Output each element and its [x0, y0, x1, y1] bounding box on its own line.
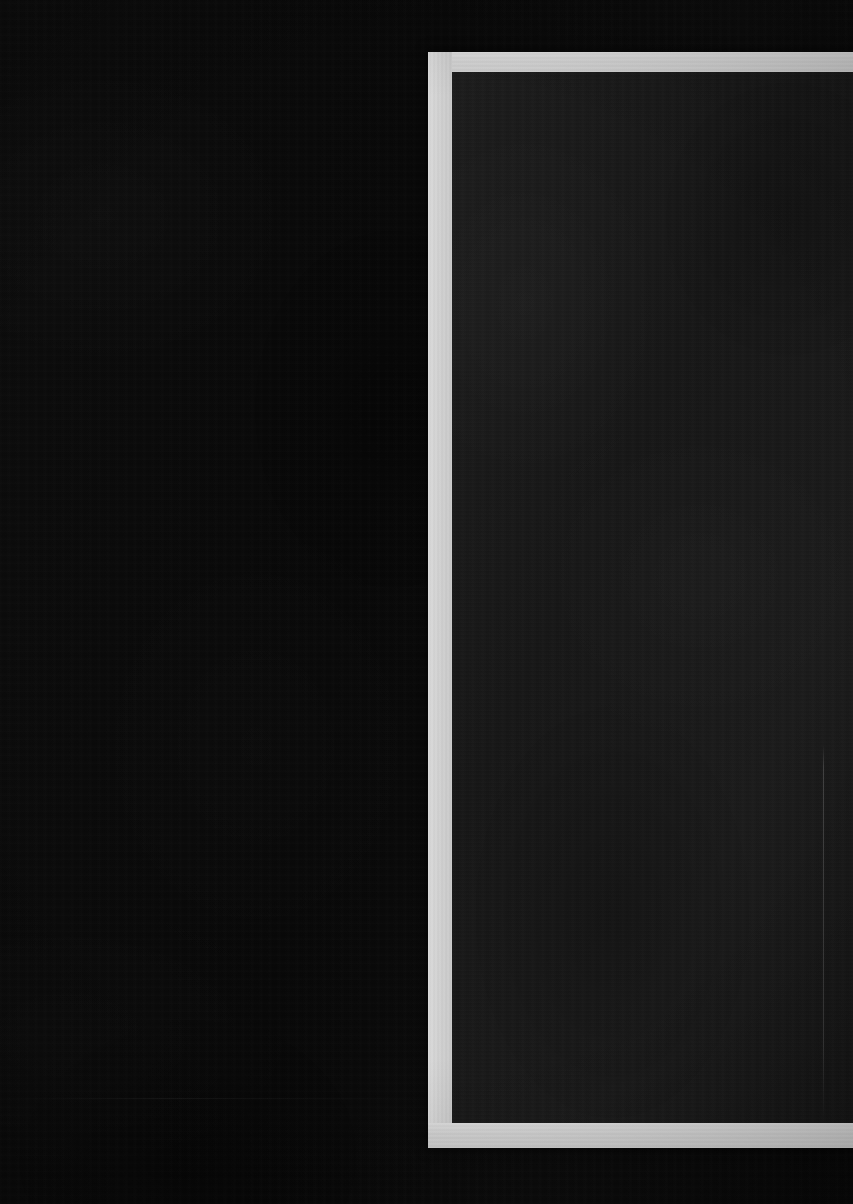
frame-interior-panel [452, 72, 853, 1123]
horizontal-seam [0, 1098, 420, 1099]
frame-top-bar [428, 52, 853, 72]
frame-left-bar [428, 52, 452, 1148]
scene-root [0, 0, 853, 1204]
interior-grain [452, 72, 853, 1123]
frame-bottom-bar [428, 1123, 853, 1148]
vertical-seam [823, 745, 824, 1120]
light-rectangular-frame [428, 52, 853, 1148]
